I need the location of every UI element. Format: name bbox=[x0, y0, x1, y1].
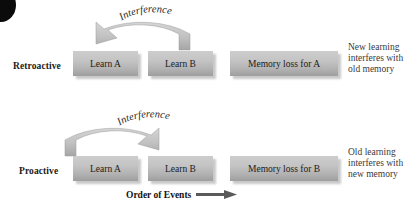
box-label: Learn B bbox=[165, 59, 196, 69]
box-label: Learn A bbox=[90, 59, 121, 69]
svg-text:Interference: Interference bbox=[114, 108, 171, 128]
explanation-line: New learning bbox=[348, 42, 403, 53]
order-of-events-arrow-icon bbox=[196, 189, 240, 201]
box-proactive-memory-loss: Memory loss for B bbox=[230, 156, 338, 181]
explanation-line: Old learning bbox=[348, 147, 403, 158]
box-label: Learn B bbox=[165, 164, 196, 174]
box-proactive-learn-a: Learn A bbox=[73, 156, 138, 181]
box-retroactive-memory-loss: Memory loss for A bbox=[230, 51, 338, 76]
svg-text:Interference: Interference bbox=[116, 3, 173, 23]
row-label-proactive: Proactive bbox=[19, 166, 58, 176]
interference-diagram: Interference Interference Retroactive Le… bbox=[0, 0, 418, 206]
order-of-events-label: Order of Events bbox=[126, 190, 191, 200]
explanation-proactive: Old learning interferes with new memory bbox=[348, 147, 403, 179]
explanation-line: interferes with bbox=[348, 53, 403, 64]
box-label: Memory loss for B bbox=[248, 164, 320, 174]
arrow-label-retroactive: Interference bbox=[116, 3, 173, 23]
box-proactive-learn-b: Learn B bbox=[148, 156, 213, 181]
explanation-line: old memory bbox=[348, 64, 403, 75]
explanation-line: interferes with bbox=[348, 158, 403, 169]
box-retroactive-learn-a: Learn A bbox=[73, 51, 138, 76]
box-label: Memory loss for A bbox=[248, 59, 320, 69]
box-retroactive-learn-b: Learn B bbox=[148, 51, 213, 76]
arrow-label-proactive: Interference bbox=[114, 108, 171, 128]
explanation-retroactive: New learning interferes with old memory bbox=[348, 42, 403, 74]
box-label: Learn A bbox=[90, 164, 121, 174]
row-label-retroactive: Retroactive bbox=[13, 61, 61, 71]
explanation-line: new memory bbox=[348, 169, 403, 180]
order-of-events-footer: Order of Events bbox=[126, 189, 240, 201]
